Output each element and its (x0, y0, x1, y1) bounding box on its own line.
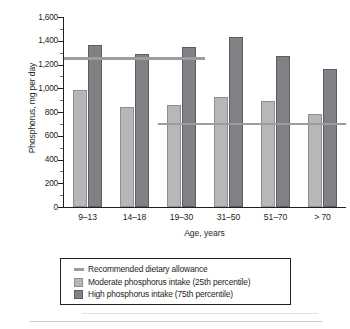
y-axis-tick (58, 136, 63, 137)
chart-legend: Recommended dietary allowance Moderate p… (60, 258, 291, 305)
x-tick-label-3: 31–50 (205, 212, 252, 222)
legend-item-rda: Recommended dietary allowance (74, 263, 290, 276)
rda-reference-line-1250 (64, 57, 205, 60)
y-tick-label: 0 (24, 203, 58, 211)
y-axis-minor-tick (60, 148, 63, 149)
bar-high-5 (323, 69, 337, 207)
y-axis-tick (58, 183, 63, 184)
bar-moderate-2 (167, 105, 181, 207)
y-axis-tick (58, 160, 63, 161)
high-swatch-icon (74, 290, 83, 299)
y-axis-minor-tick (60, 124, 63, 125)
y-tick-label: 400 (24, 155, 58, 163)
footer-rule-upper (82, 313, 318, 314)
y-axis-tick (58, 65, 63, 66)
bar-moderate-4 (261, 101, 275, 207)
bar-moderate-0 (73, 90, 87, 207)
y-axis-tick (58, 88, 63, 89)
y-axis-minor-tick (60, 53, 63, 54)
bars-layer (64, 17, 346, 207)
y-tick-label: 200 (24, 179, 58, 187)
legend-label-high: High phosphorus intake (75th percentile) (88, 290, 233, 299)
plot-area: Phosphorus, mg per day 02004006008001,00… (0, 0, 350, 245)
rda-reference-line-700 (158, 123, 346, 126)
x-tick-label-1: 14–18 (111, 212, 158, 222)
x-axis-title: Age, years (63, 228, 346, 238)
bar-high-0 (88, 45, 102, 207)
y-axis-tick-labels: 02004006008001,0001,2001,4001,600 (24, 0, 58, 245)
y-tick-label: 600 (24, 131, 58, 139)
bar-moderate-3 (214, 97, 228, 207)
legend-item-high: High phosphorus intake (75th percentile) (74, 289, 290, 302)
bar-moderate-1 (120, 107, 134, 207)
y-axis-tick (58, 112, 63, 113)
x-tick-label-2: 19–30 (158, 212, 205, 222)
phosphorus-intake-bar-chart: Phosphorus, mg per day 02004006008001,00… (0, 0, 350, 329)
x-axis-line (63, 207, 346, 208)
y-axis-tick (58, 17, 63, 18)
legend-label-rda: Recommended dietary allowance (88, 265, 207, 274)
bar-high-1 (135, 54, 149, 207)
legend-item-moderate: Moderate phosphorus intake (25th percent… (74, 276, 290, 289)
y-axis-minor-tick (60, 100, 63, 101)
y-axis-minor-tick (60, 195, 63, 196)
y-tick-label: 1,600 (24, 13, 58, 21)
y-tick-label: 1,200 (24, 60, 58, 68)
x-tick-label-5: > 70 (299, 212, 346, 222)
rda-line-swatch-icon (74, 268, 84, 271)
footer-rule (30, 321, 322, 322)
y-axis-tick (58, 207, 63, 208)
y-axis-minor-tick (60, 171, 63, 172)
y-axis-minor-tick (60, 76, 63, 77)
y-axis-minor-tick (60, 29, 63, 30)
x-tick-label-4: 51–70 (252, 212, 299, 222)
y-tick-label: 1,000 (24, 84, 58, 92)
x-tick-label-0: 9–13 (64, 212, 111, 222)
moderate-swatch-icon (74, 278, 83, 287)
bar-high-2 (182, 47, 196, 207)
y-tick-label: 1,400 (24, 36, 58, 44)
bar-moderate-5 (308, 114, 322, 207)
bar-high-4 (276, 56, 290, 207)
legend-label-moderate: Moderate phosphorus intake (25th percent… (88, 278, 250, 287)
y-tick-label: 800 (24, 108, 58, 116)
y-axis-tick (58, 41, 63, 42)
